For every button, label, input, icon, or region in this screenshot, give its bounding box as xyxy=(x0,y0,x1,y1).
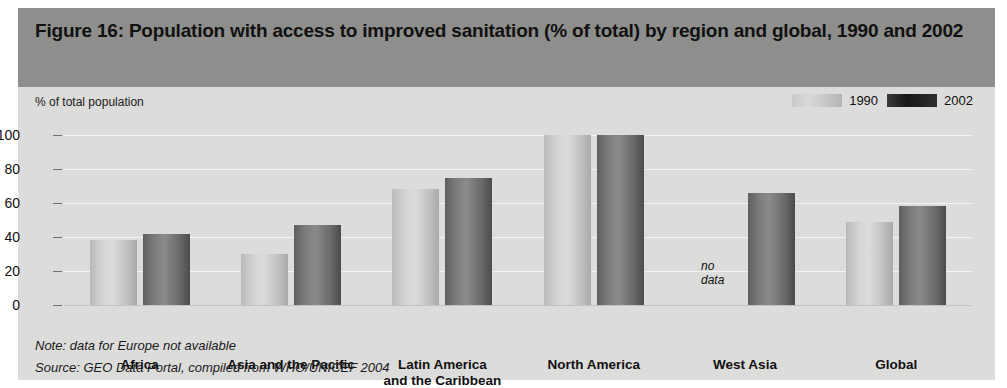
figure-source: Source: GEO Data Portal, compiled from W… xyxy=(35,360,390,375)
gridline-0 xyxy=(64,305,972,306)
legend-swatch-1990-icon xyxy=(792,94,842,107)
category-label-global: Global xyxy=(786,357,1006,373)
y-tick-dash-80 xyxy=(53,169,62,170)
no-data-annotation: nodata xyxy=(701,259,724,287)
bar-asia-and-the-pacific-1990[interactable] xyxy=(241,254,288,305)
legend-label-1990: 1990 xyxy=(849,93,878,108)
y-tick-dash-0 xyxy=(53,305,62,306)
plot-area: 020406080100 nodata AfricaAsia and the P… xyxy=(64,135,972,305)
y-tick-dash-40 xyxy=(53,237,62,238)
gridline-80 xyxy=(64,169,972,170)
y-tick-label-40: 40 xyxy=(0,229,20,245)
legend-label-2002: 2002 xyxy=(944,93,973,108)
legend-item-2002[interactable]: 2002 xyxy=(887,93,973,108)
bar-africa-1990[interactable] xyxy=(90,240,137,305)
gridline-20 xyxy=(64,271,972,272)
bar-asia-and-the-pacific-2002[interactable] xyxy=(294,225,341,305)
y-axis-title: % of total population xyxy=(35,95,144,109)
figure-title: Figure 16: Population with access to imp… xyxy=(35,18,965,44)
chart-legend: 1990 2002 xyxy=(792,93,973,108)
bar-africa-2002[interactable] xyxy=(143,234,190,305)
y-tick-label-100: 100 xyxy=(0,127,20,143)
bar-west-asia-2002[interactable] xyxy=(748,193,795,305)
gridline-40 xyxy=(64,237,972,238)
gridline-60 xyxy=(64,203,972,204)
gridline-100 xyxy=(64,135,972,136)
y-tick-label-0: 0 xyxy=(0,297,20,313)
figure-title-band: Figure 16: Population with access to imp… xyxy=(18,8,995,87)
bar-global-1990[interactable] xyxy=(846,222,893,305)
chart-body: % of total population 1990 2002 02040608… xyxy=(18,87,995,380)
bar-north-america-2002[interactable] xyxy=(597,135,644,305)
figure-note: Note: data for Europe not available xyxy=(35,338,236,353)
bar-global-2002[interactable] xyxy=(899,206,946,305)
figure-panel: Figure 16: Population with access to imp… xyxy=(18,8,995,380)
bar-latin-america-and-the-caribbean-1990[interactable] xyxy=(392,189,439,305)
bar-north-america-1990[interactable] xyxy=(544,135,591,305)
y-tick-label-60: 60 xyxy=(0,195,20,211)
legend-swatch-2002-icon xyxy=(887,94,937,107)
bar-latin-america-and-the-caribbean-2002[interactable] xyxy=(445,178,492,306)
y-tick-dash-100 xyxy=(53,135,62,136)
legend-item-1990[interactable]: 1990 xyxy=(792,93,878,108)
y-tick-label-80: 80 xyxy=(0,161,20,177)
y-tick-label-20: 20 xyxy=(0,263,20,279)
y-tick-dash-20 xyxy=(53,271,62,272)
y-tick-dash-60 xyxy=(53,203,62,204)
